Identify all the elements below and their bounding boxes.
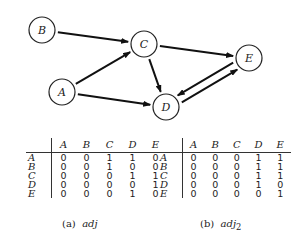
column-header: E bbox=[269, 138, 291, 153]
table-cell: 0 bbox=[248, 189, 270, 198]
table-corner bbox=[26, 138, 52, 153]
table-row: E00001 bbox=[158, 189, 291, 198]
table-cell: 0 bbox=[52, 189, 76, 198]
column-header: B bbox=[75, 138, 98, 153]
caption-adj: (a) adj bbox=[62, 218, 98, 232]
node-D: D bbox=[153, 94, 179, 120]
column-header: B bbox=[204, 138, 226, 153]
edge-C-to-E bbox=[160, 46, 233, 56]
node-label: D bbox=[161, 101, 171, 114]
table-cell: 0 bbox=[98, 189, 121, 198]
edge-A-to-D bbox=[78, 94, 150, 104]
row-header: E bbox=[26, 189, 52, 198]
table-row: C00011 bbox=[158, 171, 291, 180]
adjacency-table-adj2: A B C D E A00011B00011C00011D00010E00001 bbox=[158, 138, 291, 198]
caption-name: adj bbox=[221, 218, 236, 229]
caption-subscript: 2 bbox=[236, 222, 241, 232]
node-E: E bbox=[236, 45, 262, 71]
caption-adj2: (b) adj2 bbox=[200, 218, 241, 232]
edge-B-to-C bbox=[58, 32, 128, 42]
node-B: B bbox=[29, 17, 55, 43]
table-cell: 0 bbox=[204, 189, 226, 198]
edge-C-to-D bbox=[149, 59, 160, 92]
edge-A-to-C bbox=[76, 52, 130, 84]
caption-prefix: (b) bbox=[200, 218, 214, 229]
column-header: C bbox=[226, 138, 248, 153]
caption-name: adj bbox=[82, 218, 97, 229]
edge-D-to-E bbox=[182, 70, 237, 103]
table-cell: 1 bbox=[121, 189, 144, 198]
table-header-row: A B C D E bbox=[26, 138, 167, 153]
column-header: D bbox=[121, 138, 144, 153]
table-cell: 0 bbox=[226, 189, 248, 198]
table-row: A00011 bbox=[158, 153, 291, 163]
table-cell: 0 bbox=[182, 189, 204, 198]
table-row: C00011 bbox=[26, 171, 167, 180]
table-header-row: A B C D E bbox=[158, 138, 291, 153]
caption-prefix: (a) bbox=[62, 218, 76, 229]
table-corner bbox=[158, 138, 182, 153]
directed-graph: ABCDE bbox=[0, 0, 291, 130]
table-cell: 0 bbox=[75, 189, 98, 198]
node-C: C bbox=[131, 31, 157, 57]
column-header: C bbox=[98, 138, 121, 153]
table-row: B00100 bbox=[26, 162, 167, 171]
adjacency-table-adj: A B C D E A00110B00100C00011D00001E00010 bbox=[26, 138, 167, 198]
node-A: A bbox=[49, 79, 75, 105]
column-header: A bbox=[182, 138, 204, 153]
node-label: A bbox=[57, 86, 66, 99]
table-row: E00010 bbox=[26, 189, 167, 198]
table-cell: 1 bbox=[269, 189, 291, 198]
table-row: D00001 bbox=[26, 180, 167, 189]
column-header: D bbox=[248, 138, 270, 153]
node-label: C bbox=[140, 38, 149, 51]
table-row: D00010 bbox=[158, 180, 291, 189]
node-label: E bbox=[244, 52, 253, 65]
column-header: A bbox=[52, 138, 76, 153]
table-row: A00110 bbox=[26, 153, 167, 163]
node-label: B bbox=[37, 24, 46, 37]
edge-E-to-D bbox=[178, 63, 233, 96]
table-row: B00011 bbox=[158, 162, 291, 171]
row-header: E bbox=[158, 189, 182, 198]
